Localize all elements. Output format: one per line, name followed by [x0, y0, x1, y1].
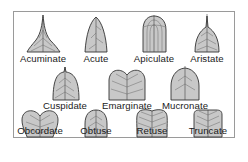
aristate-leaf-icon: [195, 14, 219, 52]
label-retuse: Retuse: [137, 126, 168, 136]
cuspidate-leaf-icon: [53, 67, 79, 100]
label-cuspidate: Cuspidate: [43, 101, 87, 111]
emarginate-leaf-icon: [109, 70, 145, 100]
label-aristate: Aristate: [190, 54, 223, 64]
apiculate-leaf-icon: [143, 15, 166, 52]
label-emarginate: Emarginate: [102, 101, 152, 111]
label-apiculate: Apiculate: [134, 54, 174, 64]
mucronate-leaf-icon: [171, 66, 199, 100]
label-acuminate: Acuminate: [20, 54, 66, 64]
label-acute: Acute: [83, 54, 108, 64]
leaf-tips-diagram: .leaf { fill: #c8c8c8; stroke: #333; str…: [0, 0, 248, 162]
label-obtuse: Obtuse: [80, 126, 112, 136]
acute-leaf-icon: [85, 17, 107, 52]
acuminate-leaf-icon: [27, 15, 60, 52]
label-truncate: Truncate: [189, 126, 227, 136]
label-obcordate: Obcordate: [17, 126, 63, 136]
label-mucronate: Mucronate: [162, 101, 208, 111]
